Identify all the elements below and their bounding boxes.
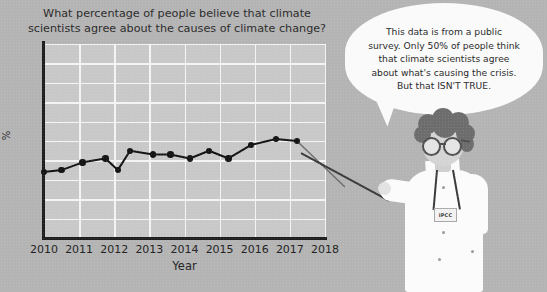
glasses-bridge xyxy=(440,143,446,145)
coat-button-3 xyxy=(438,258,441,261)
data-point xyxy=(102,155,108,161)
hair-curl-6 xyxy=(434,120,456,138)
data-point xyxy=(187,155,193,161)
bubble-line-5: But that ISN'T TRUE. xyxy=(397,80,491,91)
gridline-vertical xyxy=(79,44,80,238)
gridline-vertical xyxy=(185,44,186,238)
bubble-line-4: about what's causing the crisis. xyxy=(371,67,516,78)
y-axis-line xyxy=(42,41,45,240)
gridline-vertical xyxy=(114,44,115,238)
y-axis-label: % xyxy=(2,130,12,141)
line-chart: What percentage of people believe that c… xyxy=(0,0,345,292)
x-tick-label: 2018 xyxy=(302,243,348,256)
comic-illustration: What percentage of people believe that c… xyxy=(0,0,547,292)
gridline-vertical xyxy=(290,44,291,238)
bubble-line-2: survey. Only 50% of people think xyxy=(368,40,520,51)
data-point xyxy=(79,159,85,165)
speech-bubble-text: This data is from a public survey. Only … xyxy=(356,25,532,93)
glasses-right-lens xyxy=(443,137,462,156)
x-axis-line xyxy=(42,237,327,240)
coat-pocket-dot xyxy=(471,250,474,253)
data-point xyxy=(127,148,133,154)
data-point xyxy=(167,151,173,157)
chart-title: What percentage of people believe that c… xyxy=(18,6,336,36)
glasses-left-lens xyxy=(422,137,441,156)
y-axis-label-text: % xyxy=(1,131,12,141)
data-point xyxy=(58,167,64,173)
lab-coat-shoulder-right xyxy=(460,174,488,234)
bubble-line-3: that climate scientists agree xyxy=(379,53,510,64)
coat-button-2 xyxy=(442,231,445,234)
data-point xyxy=(225,155,231,161)
x-axis-label: Year xyxy=(44,259,325,273)
gridline-vertical xyxy=(325,44,326,238)
bubble-line-1: This data is from a public xyxy=(386,26,502,37)
plot-area xyxy=(44,44,325,238)
data-point xyxy=(150,151,156,157)
gridline-vertical xyxy=(255,44,256,238)
gridline-vertical xyxy=(220,44,221,238)
ipcc-badge: IPCC xyxy=(434,208,457,222)
ipcc-badge-label: IPCC xyxy=(439,212,453,218)
chart-title-line-2: scientists agree about the causes of cli… xyxy=(28,22,326,35)
scientist-character: IPCC xyxy=(378,108,547,292)
data-point xyxy=(206,148,212,154)
speech-bubble: This data is from a public survey. Only … xyxy=(345,3,543,115)
coat-button-1 xyxy=(442,186,445,189)
gridline-vertical xyxy=(149,44,150,238)
chart-title-line-1: What percentage of people believe that c… xyxy=(43,7,311,20)
hand xyxy=(378,182,391,195)
